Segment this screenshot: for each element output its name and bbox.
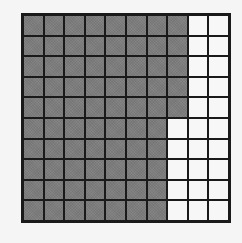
shaded-cell — [24, 37, 43, 56]
unshaded-cell — [209, 78, 228, 97]
shaded-cell — [148, 16, 167, 35]
shaded-cell — [86, 119, 105, 138]
shaded-cell — [65, 119, 84, 138]
shaded-cell — [24, 57, 43, 76]
shaded-cell — [45, 37, 64, 56]
shaded-cell — [148, 140, 167, 159]
unshaded-cell — [209, 16, 228, 35]
shaded-cell — [86, 57, 105, 76]
shaded-cell — [148, 160, 167, 179]
shaded-cell — [45, 78, 64, 97]
shaded-cell — [86, 98, 105, 117]
diagram-canvas — [0, 0, 242, 243]
unshaded-cell — [189, 119, 208, 138]
unshaded-cell — [209, 37, 228, 56]
shaded-cell — [148, 201, 167, 220]
shaded-cell — [168, 57, 187, 76]
unshaded-cell — [189, 160, 208, 179]
unshaded-cell — [189, 78, 208, 97]
shaded-cell — [45, 201, 64, 220]
shaded-cell — [45, 140, 64, 159]
shaded-cell — [168, 37, 187, 56]
unshaded-cell — [189, 181, 208, 200]
shaded-cell — [148, 37, 167, 56]
shaded-cell — [148, 57, 167, 76]
shaded-cell — [106, 201, 125, 220]
unshaded-cell — [209, 201, 228, 220]
shaded-cell — [106, 160, 125, 179]
shaded-cell — [65, 140, 84, 159]
shaded-cell — [24, 16, 43, 35]
unshaded-cell — [189, 37, 208, 56]
shaded-cell — [24, 140, 43, 159]
shaded-cell — [106, 119, 125, 138]
shaded-cell — [106, 37, 125, 56]
unshaded-cell — [209, 119, 228, 138]
unshaded-cell — [209, 98, 228, 117]
shaded-cell — [127, 78, 146, 97]
shaded-cell — [24, 201, 43, 220]
unshaded-cell — [209, 181, 228, 200]
shaded-cell — [45, 119, 64, 138]
unshaded-cell — [168, 160, 187, 179]
shaded-cell — [24, 119, 43, 138]
shaded-cell — [45, 181, 64, 200]
shaded-cell — [65, 98, 84, 117]
shaded-cell — [24, 181, 43, 200]
shaded-cell — [127, 57, 146, 76]
shaded-cell — [106, 78, 125, 97]
unshaded-cell — [189, 201, 208, 220]
shaded-cell — [106, 140, 125, 159]
unshaded-cell — [189, 57, 208, 76]
unshaded-cell — [168, 140, 187, 159]
shaded-cell — [168, 78, 187, 97]
shaded-cell — [65, 78, 84, 97]
shaded-cell — [45, 16, 64, 35]
shaded-cell — [86, 140, 105, 159]
shaded-cell — [45, 98, 64, 117]
unshaded-cell — [209, 140, 228, 159]
shaded-cell — [127, 119, 146, 138]
shaded-cell — [148, 78, 167, 97]
shaded-cell — [127, 160, 146, 179]
shaded-cell — [65, 16, 84, 35]
unshaded-cell — [168, 119, 187, 138]
shaded-cell — [148, 98, 167, 117]
shaded-cell — [106, 98, 125, 117]
shaded-cell — [148, 181, 167, 200]
shaded-cell — [65, 201, 84, 220]
shaded-cell — [65, 160, 84, 179]
unshaded-cell — [189, 16, 208, 35]
shaded-cell — [86, 16, 105, 35]
shaded-cell — [127, 181, 146, 200]
hundred-square-grid — [21, 13, 231, 223]
shaded-cell — [127, 98, 146, 117]
shaded-cell — [45, 57, 64, 76]
shaded-cell — [168, 16, 187, 35]
unshaded-cell — [209, 57, 228, 76]
shaded-cell — [106, 16, 125, 35]
shaded-cell — [86, 160, 105, 179]
shaded-cell — [106, 181, 125, 200]
shaded-cell — [127, 37, 146, 56]
unshaded-cell — [209, 160, 228, 179]
shaded-cell — [127, 140, 146, 159]
shaded-cell — [86, 78, 105, 97]
shaded-cell — [86, 37, 105, 56]
shaded-cell — [106, 57, 125, 76]
shaded-cell — [168, 98, 187, 117]
shaded-cell — [65, 181, 84, 200]
shaded-cell — [127, 16, 146, 35]
unshaded-cell — [189, 98, 208, 117]
shaded-cell — [148, 119, 167, 138]
shaded-cell — [24, 98, 43, 117]
shaded-cell — [65, 57, 84, 76]
shaded-cell — [24, 78, 43, 97]
unshaded-cell — [168, 201, 187, 220]
shaded-cell — [24, 160, 43, 179]
shaded-cell — [45, 160, 64, 179]
unshaded-cell — [189, 140, 208, 159]
unshaded-cell — [168, 181, 187, 200]
shaded-cell — [86, 201, 105, 220]
shaded-cell — [65, 37, 84, 56]
